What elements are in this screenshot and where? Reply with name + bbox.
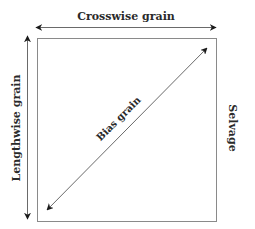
bias-grain-label: Bias grain (94, 94, 143, 143)
bias-grain-arrow (47, 48, 207, 210)
lengthwise-grain-label: Lengthwise grain (10, 75, 23, 182)
grain-diagram: Crosswise grain Lengthwise grain Selvage… (0, 0, 255, 229)
selvage-label: Selvage (226, 104, 239, 151)
crosswise-grain-label: Crosswise grain (77, 10, 175, 23)
